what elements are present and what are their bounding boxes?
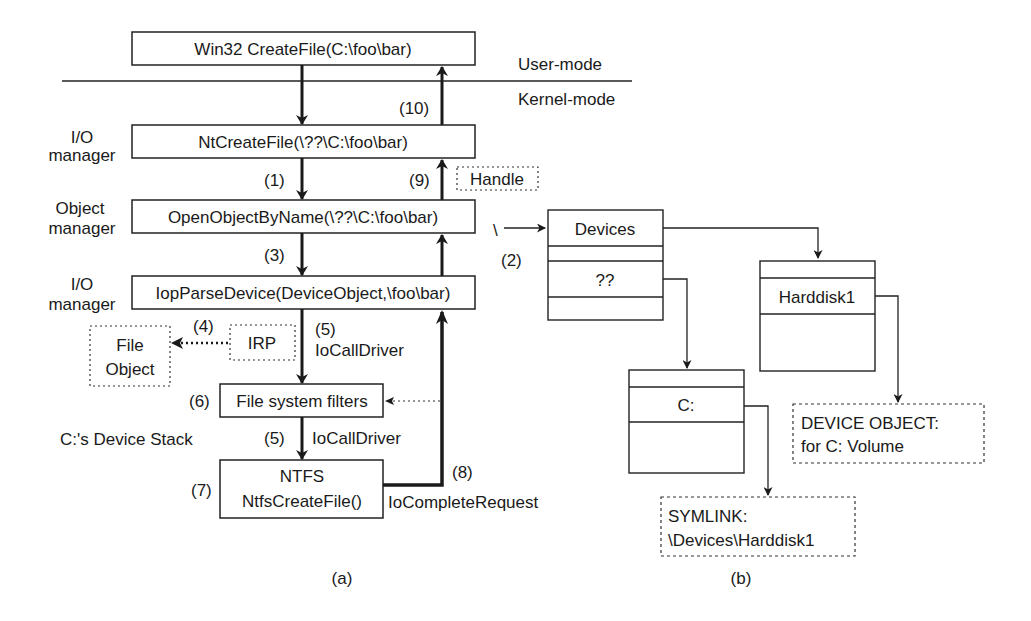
symlink-title: SYMLINK: xyxy=(668,507,747,526)
step-8-label: (8) xyxy=(452,463,473,482)
step-5-label: (5) xyxy=(264,429,285,448)
step-4-label: (4) xyxy=(193,317,214,336)
caption-a: (a) xyxy=(332,569,353,588)
iocalldriver-label: IoCallDriver xyxy=(315,341,404,360)
io-manager-label: manager xyxy=(48,146,115,165)
devices-entry: Devices xyxy=(575,220,635,239)
step-1-label: (1) xyxy=(264,171,285,190)
object-manager-label: manager xyxy=(48,219,115,238)
handle-box: Handle xyxy=(457,167,538,190)
file-system-filters-box: File system filters xyxy=(220,384,383,417)
step-10-label: (10) xyxy=(399,99,429,118)
c-drive-entry: C: xyxy=(678,396,695,415)
file-object-label: Object xyxy=(105,360,154,379)
ntfscreatefile-label: NtfsCreateFile() xyxy=(242,492,362,511)
ntcreatefile-label: NtCreateFile(\??\C:\foo\bar) xyxy=(198,133,408,152)
file-system-filters-label: File system filters xyxy=(236,392,367,411)
device-object-box: DEVICE OBJECT: for C: Volume xyxy=(793,404,984,463)
kernel-mode-label: Kernel-mode xyxy=(518,90,615,109)
arrow-icon xyxy=(875,296,898,402)
iocompleterequest-label: IoCompleteRequest xyxy=(388,493,539,512)
ntcreatefile-box: NtCreateFile(\??\C:\foo\bar) xyxy=(132,125,475,158)
step-6-label: (6) xyxy=(189,392,210,411)
irp-box: IRP xyxy=(230,325,295,360)
step-3-label: (3) xyxy=(264,246,285,265)
panel-a: Win32 CreateFile(C:\foo\bar) User-mode K… xyxy=(48,32,632,588)
symlink-box: SYMLINK: \Devices\Harddisk1 xyxy=(661,497,855,556)
dosdevices-entry: ?? xyxy=(596,271,615,290)
caption-b: (b) xyxy=(731,569,752,588)
openobjectbyname-label: OpenObjectByName(\??\C:\foo\bar) xyxy=(168,208,438,227)
step-2-label: (2) xyxy=(501,251,522,270)
io-manager-label: I/O xyxy=(71,275,94,294)
file-object-label: File xyxy=(116,336,143,355)
symlink-target: \Devices\Harddisk1 xyxy=(668,531,814,550)
root-label: \ xyxy=(493,221,498,240)
ntfs-box: NTFS NtfsCreateFile() xyxy=(220,460,383,518)
directory-table-root: Devices ?? xyxy=(548,210,663,320)
openobjectbyname-box: OpenObjectByName(\??\C:\foo\bar) xyxy=(132,200,475,233)
iocalldriver-label: IoCallDriver xyxy=(312,429,401,448)
handle-label: Handle xyxy=(470,170,524,189)
object-manager-label: Object xyxy=(55,199,104,218)
dosdevices-directory-table: C: xyxy=(629,370,744,473)
io-manager-label: I/O xyxy=(71,128,94,147)
ntfs-label: NTFS xyxy=(280,467,324,486)
device-object-subtitle: for C: Volume xyxy=(801,437,904,456)
panel-b: \ (2) Devices ?? Harddisk1 DEVICE OBJ xyxy=(493,210,984,588)
arrowhead-icon xyxy=(385,397,394,405)
device-object-title: DEVICE OBJECT: xyxy=(801,414,939,433)
arrow-icon xyxy=(663,228,818,258)
iopparsedevice-box: IopParseDevice(DeviceObject,\foo\bar) xyxy=(132,276,475,309)
arrow-icon xyxy=(663,279,687,368)
step-5-label: (5) xyxy=(315,320,336,339)
arrow-icon xyxy=(744,406,768,495)
irp-label: IRP xyxy=(248,334,276,353)
win32-createfile-box: Win32 CreateFile(C:\foo\bar) xyxy=(132,32,475,65)
step-9-label: (9) xyxy=(409,171,430,190)
file-object-box: File Object xyxy=(90,326,170,386)
devices-directory-table: Harddisk1 xyxy=(760,261,875,371)
harddisk1-entry: Harddisk1 xyxy=(779,288,856,307)
user-mode-label: User-mode xyxy=(518,55,602,74)
device-stack-label: C:'s Device Stack xyxy=(60,430,193,449)
io-flow-diagram: Win32 CreateFile(C:\foo\bar) User-mode K… xyxy=(0,0,1031,621)
iopparsedevice-label: IopParseDevice(DeviceObject,\foo\bar) xyxy=(156,284,451,303)
io-manager-label: manager xyxy=(48,295,115,314)
step-7-label: (7) xyxy=(191,481,212,500)
win32-createfile-label: Win32 CreateFile(C:\foo\bar) xyxy=(194,40,411,59)
